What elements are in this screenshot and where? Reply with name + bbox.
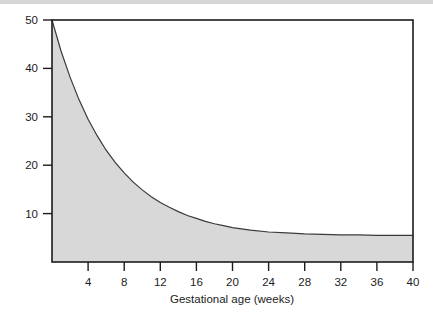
- x-tick-label: 28: [298, 276, 311, 288]
- x-tick-label: 40: [407, 276, 420, 288]
- x-tick-label: 20: [226, 276, 239, 288]
- x-tick-label: 12: [154, 276, 167, 288]
- chart-svg: 1020304050 481216202428323640 Gestationa…: [0, 0, 433, 321]
- y-tick-label: 50: [25, 14, 38, 26]
- x-tick-label: 32: [334, 276, 347, 288]
- x-tick-label: 4: [85, 276, 92, 288]
- y-tick-label: 40: [25, 62, 38, 74]
- x-tick-label: 24: [262, 276, 275, 288]
- x-axis-ticks: 481216202428323640: [85, 262, 420, 288]
- x-tick-label: 8: [121, 276, 127, 288]
- plot-area: [52, 20, 413, 262]
- figure-canvas: 1020304050 481216202428323640 Gestationa…: [0, 0, 433, 321]
- y-axis-ticks: 1020304050: [25, 14, 52, 220]
- y-tick-label: 20: [25, 159, 38, 171]
- y-tick-label: 10: [25, 208, 38, 220]
- x-tick-label: 16: [190, 276, 203, 288]
- x-axis-title: Gestational age (weeks): [170, 293, 294, 305]
- x-tick-label: 36: [371, 276, 384, 288]
- y-tick-label: 30: [25, 111, 38, 123]
